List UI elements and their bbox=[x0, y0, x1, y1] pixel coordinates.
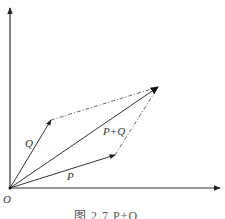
p-translated-line bbox=[51, 87, 158, 120]
p-label: P bbox=[67, 171, 74, 182]
vector-p bbox=[10, 155, 115, 188]
q-label: Q bbox=[25, 138, 33, 149]
vector-q bbox=[10, 120, 51, 188]
vector-diagram bbox=[0, 0, 225, 219]
figure-caption: 图 2.7 P+Q bbox=[74, 210, 138, 219]
origin-label: O bbox=[3, 194, 11, 205]
sum-label: P+Q bbox=[103, 126, 125, 137]
q-translated-line bbox=[115, 87, 158, 155]
origin-point bbox=[9, 187, 12, 190]
